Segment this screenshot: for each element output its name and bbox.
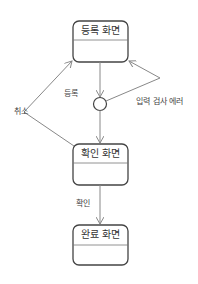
edge-confirm-to-register-cancel <box>24 61 74 146</box>
state-confirm: 확인 화면 <box>73 144 128 185</box>
state-register-label: 등록 화면 <box>81 25 120 36</box>
state-diagram: 등록 화면 확인 화면 완료 화면 등록 입력 검사 에러 취소 확인 <box>0 0 198 284</box>
edge-label-register: 등록 <box>64 89 78 98</box>
edge-choice-to-register-error <box>106 61 160 101</box>
state-complete: 완료 화면 <box>73 225 128 265</box>
edge-label-confirm: 확인 <box>76 198 90 208</box>
state-confirm-label: 확인 화면 <box>81 148 120 159</box>
state-register: 등록 화면 <box>73 21 128 62</box>
edge-label-input-error: 입력 검사 에러 <box>136 96 183 106</box>
choice-node <box>94 98 107 111</box>
state-complete-label: 완료 화면 <box>81 229 120 240</box>
edge-label-cancel: 취소 <box>14 107 28 116</box>
